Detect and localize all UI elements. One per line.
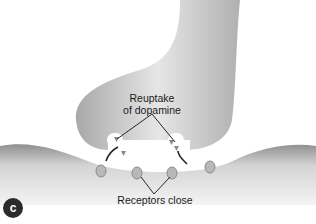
reuptake-transporter-left [107,133,123,147]
receptor [205,161,215,173]
receptors-label: Receptors close [115,194,195,206]
dopamine-icon [121,151,126,156]
receptor [132,167,142,179]
presynaptic-terminal [76,0,240,150]
receptor [96,165,106,177]
receptor [167,167,177,179]
reuptake-label: Reuptake of dopamine [112,92,192,116]
reuptake-arrow-right [178,151,187,164]
panel-label-badge: c [3,198,23,218]
